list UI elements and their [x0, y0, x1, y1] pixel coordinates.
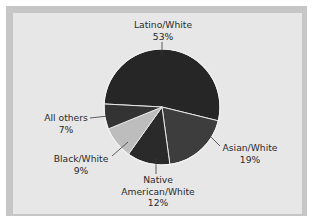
label-name: Latino/White	[131, 19, 195, 31]
label-name: Black/White	[50, 153, 112, 165]
label-value: 12%	[118, 197, 198, 209]
label-all-others: All others 7%	[38, 112, 94, 135]
label-value: 7%	[38, 124, 94, 136]
label-name-line2: American/White	[118, 186, 198, 198]
label-value: 9%	[50, 165, 112, 177]
label-value: 19%	[218, 154, 282, 166]
label-value: 53%	[131, 31, 195, 43]
label-name: Asian/White	[218, 142, 282, 154]
label-asian-white: Asian/White 19%	[218, 142, 282, 165]
label-name-line1: Native	[118, 174, 198, 186]
label-latino-white: Latino/White 53%	[131, 19, 195, 42]
label-black-white: Black/White 9%	[50, 153, 112, 176]
label-name: All others	[38, 112, 94, 124]
label-native-american-white: Native American/White 12%	[118, 174, 198, 209]
